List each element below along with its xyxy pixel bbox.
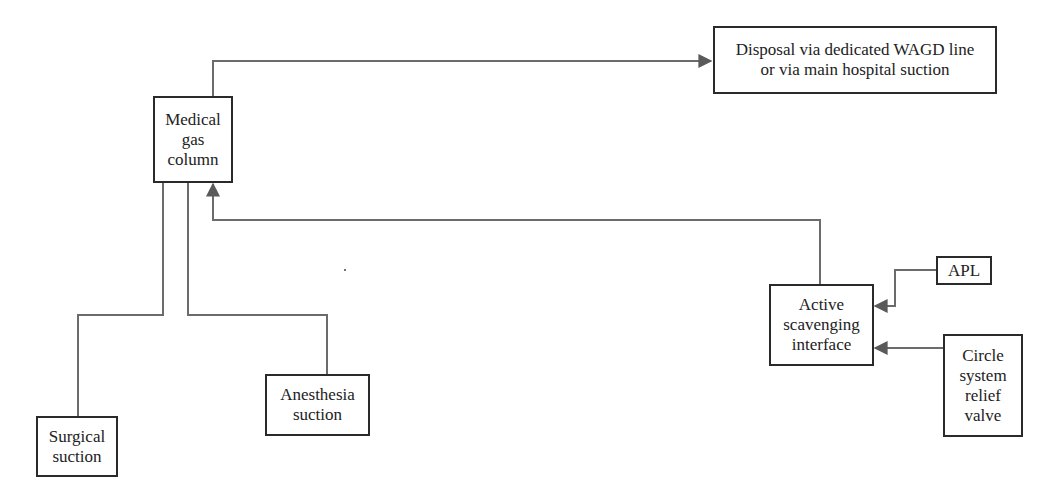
node-label: Anesthesia suction bbox=[280, 385, 355, 425]
stray-dot bbox=[344, 269, 346, 271]
node-medical-gas-column: Medical gas column bbox=[153, 96, 233, 183]
node-surgical-suction: Surgical suction bbox=[36, 416, 118, 477]
edge-column-to-disposal bbox=[213, 61, 711, 96]
edge-apl-to-active bbox=[875, 270, 936, 306]
edge-column-to-surgical bbox=[78, 182, 163, 416]
node-label: Medical gas column bbox=[165, 110, 221, 170]
node-label: Surgical suction bbox=[49, 427, 105, 467]
node-circle-system-relief-valve: Circle system relief valve bbox=[943, 334, 1023, 437]
edge-column-to-anesthesia bbox=[188, 182, 327, 374]
node-label: Active scavenging interface bbox=[783, 295, 859, 355]
node-active-scavenging-interface: Active scavenging interface bbox=[769, 284, 874, 366]
node-apl: APL bbox=[936, 256, 992, 285]
edge-active-to-column bbox=[213, 184, 820, 284]
node-anesthesia-suction: Anesthesia suction bbox=[265, 374, 370, 436]
node-label: Disposal via dedicated WAGD line or via … bbox=[736, 40, 975, 80]
node-label: APL bbox=[948, 261, 980, 281]
node-disposal: Disposal via dedicated WAGD line or via … bbox=[713, 26, 997, 94]
node-label: Circle system relief valve bbox=[959, 346, 1006, 426]
